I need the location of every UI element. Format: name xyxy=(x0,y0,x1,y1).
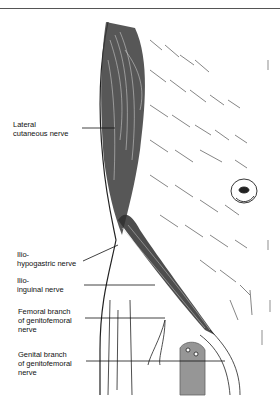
label-line: Ilio- xyxy=(17,250,76,259)
label-line: inguinal nerve xyxy=(17,285,64,294)
label-line: hypogastric nerve xyxy=(17,259,76,268)
label-line: of genitofemoral xyxy=(18,316,72,325)
label-ilioinguinal-nerve: Ilio- inguinal nerve xyxy=(17,276,64,294)
label-line: Genital branch xyxy=(18,350,72,359)
label-line: nerve xyxy=(18,368,72,377)
label-line: nerve xyxy=(18,325,72,334)
spermatic-cord xyxy=(180,342,205,395)
label-line: of genitofemoral xyxy=(18,359,72,368)
label-femoral-branch-genitofemoral: Femoral branch of genitofemoral nerve xyxy=(18,307,72,334)
label-line: Ilio- xyxy=(17,276,64,285)
umbilicus xyxy=(231,179,257,203)
anatomical-illustration xyxy=(0,0,280,400)
label-lateral-cutaneous-nerve: Lateral cutaneous nerve xyxy=(13,120,68,138)
label-genital-branch-genitofemoral: Genital branch of genitofemoral nerve xyxy=(18,350,72,377)
label-line: Lateral xyxy=(13,120,68,129)
label-line: Femoral branch xyxy=(18,307,72,316)
label-iliohypogastric-nerve: Ilio- hypogastric nerve xyxy=(17,250,76,268)
label-line: cutaneous nerve xyxy=(13,129,68,138)
